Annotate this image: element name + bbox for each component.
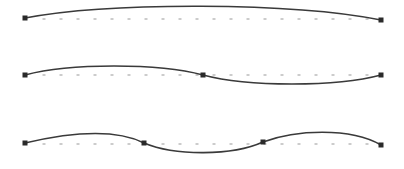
baseline-dot — [349, 19, 352, 20]
baseline-dot — [111, 19, 114, 20]
baseline-dot — [281, 19, 284, 20]
control-node-square — [142, 141, 147, 146]
baseline-dot — [196, 19, 199, 20]
baseline-dot — [298, 75, 301, 76]
baseline-dot — [43, 19, 46, 20]
baseline-dot — [128, 19, 131, 20]
baseline-dot — [128, 144, 131, 145]
baseline-dot — [60, 19, 63, 20]
baseline-dot — [196, 144, 199, 145]
baseline-dot — [230, 19, 233, 20]
baseline-dot — [43, 144, 46, 145]
baseline-dot — [94, 144, 97, 145]
baseline-dot — [111, 144, 114, 145]
baseline-dot — [247, 75, 250, 76]
baseline-dot — [366, 19, 369, 20]
baseline-dot — [60, 144, 63, 145]
baseline-dot — [349, 144, 352, 145]
baseline-dot — [247, 19, 250, 20]
baseline-dot — [179, 75, 182, 76]
baseline-dot — [77, 75, 80, 76]
baseline-dot — [77, 19, 80, 20]
baseline-dot — [332, 144, 335, 145]
baseline-dot — [264, 19, 267, 20]
baseline-dot — [94, 19, 97, 20]
control-node-square — [261, 140, 266, 145]
curve-path — [25, 6, 381, 20]
baseline-dot — [315, 144, 318, 145]
baseline-dot — [247, 144, 250, 145]
curve-diagram — [0, 0, 404, 169]
baseline-dot — [196, 75, 199, 76]
control-node-square — [379, 18, 384, 23]
control-node-square — [201, 73, 206, 78]
baseline-dot — [213, 144, 216, 145]
baseline-dot — [162, 144, 165, 145]
spline-segments-diagram — [0, 0, 404, 169]
baseline-dot — [264, 75, 267, 76]
baseline-dot — [60, 75, 63, 76]
control-node-square — [23, 141, 28, 146]
baseline-dot — [230, 144, 233, 145]
control-node-square — [379, 73, 384, 78]
control-node-square — [23, 16, 28, 21]
baseline-dot — [281, 144, 284, 145]
baseline-dot — [366, 144, 369, 145]
baseline-dot — [77, 144, 80, 145]
baseline-dot — [298, 19, 301, 20]
baseline-dot — [230, 75, 233, 76]
baseline-dot — [179, 144, 182, 145]
baseline-dot — [162, 19, 165, 20]
baseline-dot — [128, 75, 131, 76]
baseline-dot — [94, 75, 97, 76]
baseline-dot — [213, 19, 216, 20]
baseline-dot — [162, 75, 165, 76]
baseline-dot — [349, 75, 352, 76]
control-node-square — [379, 143, 384, 148]
control-node-square — [23, 73, 28, 78]
baseline-dot — [213, 75, 216, 76]
row-single-segment — [23, 6, 384, 22]
curve-path — [25, 132, 381, 152]
baseline-dots — [43, 19, 369, 20]
baseline-dot — [43, 75, 46, 76]
baseline-dot — [366, 75, 369, 76]
baseline-dot — [179, 19, 182, 20]
baseline-dot — [145, 19, 148, 20]
baseline-dot — [145, 75, 148, 76]
baseline-dot — [332, 75, 335, 76]
baseline-dot — [298, 144, 301, 145]
baseline-dot — [315, 19, 318, 20]
baseline-dots — [43, 144, 369, 145]
baseline-dot — [111, 75, 114, 76]
baseline-dot — [281, 75, 284, 76]
row-two-segment — [23, 66, 384, 84]
row-three-segment — [23, 132, 384, 152]
baseline-dot — [332, 19, 335, 20]
baseline-dot — [315, 75, 318, 76]
